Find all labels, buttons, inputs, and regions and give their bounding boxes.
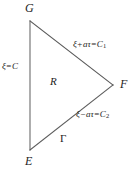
edge-left-value: C — [12, 61, 18, 71]
edge-upper-characteristic — [30, 21, 113, 85]
edge-equation-left: ξ=C — [2, 62, 18, 71]
edge-equation-upper: ξ+aτ=C1 — [73, 40, 106, 50]
vertex-label-f: F — [120, 78, 127, 90]
edge-equation-lower: ξ−aτ=C2 — [76, 110, 109, 120]
triangle-drawing — [0, 0, 137, 173]
edge-upper-term: aτ — [83, 39, 91, 49]
edge-upper-value: C — [97, 39, 103, 49]
vertex-label-g: G — [25, 2, 34, 14]
edge-lower-value: C — [100, 109, 106, 119]
vertex-label-e: E — [25, 155, 32, 167]
figure-canvas: G E F R Γ ξ=C ξ+aτ=C1 ξ−aτ=C2 — [0, 0, 137, 173]
edge-lower-subscript: 2 — [106, 112, 109, 119]
edge-lower-term: aτ — [86, 109, 94, 119]
region-label-r: R — [50, 76, 57, 87]
edge-upper-subscript: 1 — [103, 42, 106, 49]
boundary-label-gamma: Γ — [60, 133, 66, 144]
